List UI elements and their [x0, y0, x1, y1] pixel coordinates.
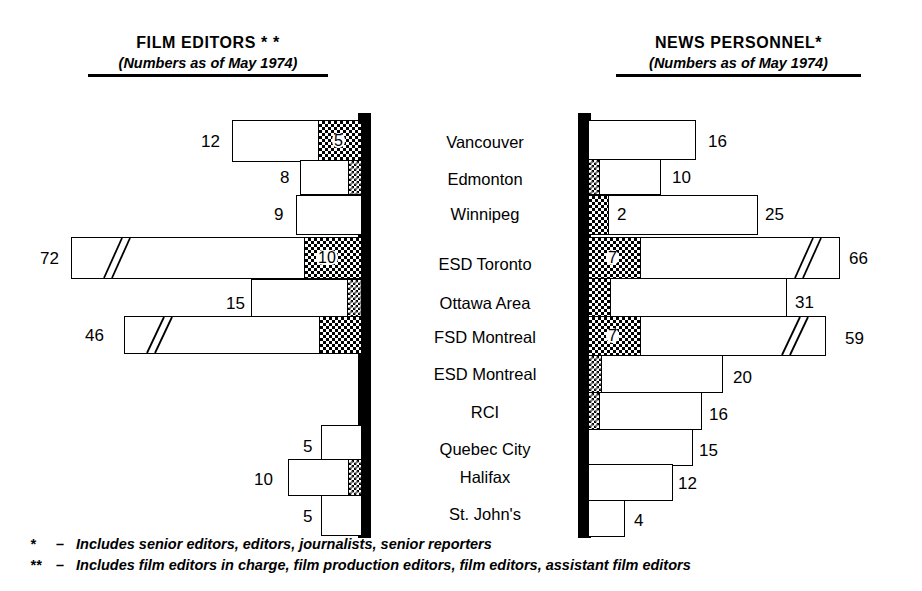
- left-value-quebec-city: 5: [303, 437, 312, 457]
- category-label-rci: RCI: [390, 403, 580, 422]
- left-value-winnipeg: 9: [274, 205, 283, 225]
- left-bar-winnipeg: [296, 195, 362, 235]
- left-bar-vancouver: [232, 120, 322, 162]
- chart-root: FILM EDITORS * * (Numbers as of May 1974…: [0, 0, 922, 591]
- right-bar-edmonton: [599, 159, 661, 195]
- right-bar-winnipeg: [608, 195, 758, 235]
- left-panel-title: FILM EDITORS * *: [88, 34, 328, 52]
- right-bar-quebec-city: [588, 429, 693, 466]
- category-label-ottawa-area: Ottawa Area: [390, 294, 580, 313]
- left-bar-fsd-montreal: [124, 316, 322, 354]
- right-panel-title: NEWS PERSONNEL*: [616, 34, 861, 52]
- left-bar-halifax-hatch: [348, 459, 362, 496]
- left-value-ottawa-area: 15: [226, 294, 245, 314]
- footnotes: * – Includes senior editors, editors, jo…: [30, 536, 910, 578]
- right-bar-st-johns: [588, 500, 625, 537]
- category-label-fsd-montreal: FSD Montreal: [390, 328, 580, 347]
- right-value-st-johns: 4: [634, 511, 643, 531]
- left-bar-ottawa-area-hatch: [347, 279, 362, 317]
- left-bar-edmonton-hatch: [348, 160, 362, 195]
- left-panel-title-rule: [88, 74, 328, 77]
- right-bar-winnipeg-hatch: [588, 195, 610, 235]
- category-label-st-johns: St. John's: [390, 505, 580, 524]
- right-value-rci: 16: [709, 405, 728, 425]
- right-bar-ottawa-area: [610, 278, 787, 318]
- right-panel-title-block: NEWS PERSONNEL* (Numbers as of May 1974): [616, 34, 861, 77]
- left-bar-st-johns: [321, 495, 362, 536]
- right-value-edmonton: 10: [672, 168, 691, 188]
- right-bar-esd-montreal: [601, 355, 723, 393]
- right-value-esd-toronto: 66: [849, 249, 868, 269]
- right-bar-rci: [599, 392, 702, 430]
- left-value-st-johns: 5: [303, 507, 312, 527]
- left-bar-ottawa-area: [251, 279, 351, 317]
- right-value-esd-toronto-hatch: 7: [606, 250, 619, 265]
- category-label-edmonton: Edmonton: [390, 170, 580, 189]
- left-bar-edmonton: [300, 160, 352, 195]
- footnote-text-double: Includes film editors in charge, film pr…: [76, 557, 691, 573]
- category-label-halifax: Halifax: [390, 468, 580, 487]
- category-label-vancouver: Vancouver: [390, 133, 580, 152]
- right-bar-halifax: [588, 464, 673, 501]
- footnote-mark-single: *: [30, 536, 56, 552]
- category-label-quebec-city: Quebec City: [390, 440, 580, 459]
- right-bar-fsd-montreal: [640, 316, 826, 356]
- category-label-column: Vancouver Edmonton Winnipeg ESD Toronto …: [390, 113, 580, 538]
- right-value-winnipeg: 25: [765, 205, 784, 225]
- right-value-vancouver: 16: [708, 132, 727, 152]
- left-value-esd-toronto: 72: [40, 249, 59, 269]
- footnote-double-asterisk: ** – Includes film editors in charge, fi…: [30, 557, 910, 573]
- right-bar-ottawa-area-hatch: [588, 278, 612, 318]
- left-value-vancouver-hatch: 5: [332, 133, 345, 148]
- left-bar-quebec-city: [321, 425, 362, 460]
- left-value-edmonton: 8: [280, 168, 289, 188]
- right-bar-esd-toronto: [640, 237, 840, 279]
- right-bar-vancouver: [588, 120, 696, 160]
- left-value-halifax: 10: [254, 470, 273, 490]
- right-value-esd-montreal: 20: [733, 368, 752, 388]
- left-value-vancouver: 12: [201, 132, 220, 152]
- left-panel-title-block: FILM EDITORS * * (Numbers as of May 1974…: [88, 34, 328, 77]
- left-bar-fsd-montreal-hatch: [319, 316, 362, 354]
- right-value-fsd-montreal: 59: [845, 329, 864, 349]
- left-value-fsd-montreal: 46: [85, 326, 104, 346]
- right-value-winnipeg-hatch: 2: [617, 205, 626, 225]
- right-panel-subtitle: (Numbers as of May 1974): [616, 55, 861, 71]
- footnote-text-single: Includes senior editors, editors, journa…: [76, 536, 492, 552]
- left-bar-halifax: [288, 459, 350, 496]
- right-panel-title-rule: [616, 74, 861, 77]
- footnote-single-asterisk: * – Includes senior editors, editors, jo…: [30, 536, 910, 552]
- category-label-esd-montreal: ESD Montreal: [390, 365, 580, 384]
- left-bar-esd-toronto: [71, 237, 321, 279]
- right-value-ottawa-area: 31: [795, 293, 814, 313]
- right-value-halifax: 12: [678, 474, 697, 494]
- category-label-esd-toronto: ESD Toronto: [390, 255, 580, 274]
- right-value-fsd-montreal-hatch: 7: [606, 328, 619, 343]
- footnote-dash-double: –: [56, 557, 76, 573]
- left-panel-subtitle: (Numbers as of May 1974): [88, 55, 328, 71]
- footnote-mark-double: **: [30, 557, 56, 573]
- left-value-esd-toronto-hatch: 10: [316, 250, 338, 265]
- category-label-winnipeg: Winnipeg: [390, 205, 580, 224]
- footnote-dash-single: –: [56, 536, 76, 552]
- right-value-quebec-city: 15: [699, 441, 718, 461]
